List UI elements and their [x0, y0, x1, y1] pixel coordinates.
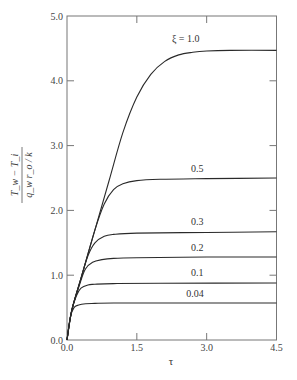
- curve-label: 0.2: [191, 242, 204, 253]
- y-tick-label: 2.0: [51, 205, 64, 216]
- curve-1.0: [67, 50, 277, 340]
- y-axis-title-numerator: T_w − T_i: [9, 154, 20, 197]
- curve-label: 0.5: [191, 163, 204, 174]
- y-tick-label: 4.0: [51, 75, 64, 86]
- y-tick-label: 1.0: [51, 270, 64, 281]
- y-tick-label: 3.0: [51, 140, 64, 151]
- y-tick-label: 0.0: [51, 335, 64, 346]
- curve-0.2: [67, 257, 277, 340]
- x-axis-title: τ: [169, 355, 174, 367]
- curve-0.3: [67, 232, 277, 340]
- curve-0.5: [67, 178, 277, 340]
- y-axis-title-denominator: q_w r_o / k: [23, 152, 34, 198]
- y-tick-label: 5.0: [51, 11, 64, 22]
- chart: 0.01.53.04.50.01.02.03.04.05.0 ξ = 1.00.…: [0, 0, 297, 380]
- curve-label: 0.3: [191, 216, 204, 227]
- y-axis-title: T_w − T_i q_w r_o / k: [2, 140, 42, 210]
- x-tick-label: 1.5: [131, 342, 144, 353]
- curve-label: ξ = 1.0: [172, 33, 200, 45]
- curve-0.1: [67, 283, 277, 340]
- curves: [67, 50, 277, 340]
- curve-label: 0.04: [186, 288, 204, 299]
- curve-labels: ξ = 1.00.50.30.20.10.04: [172, 33, 204, 299]
- curve-label: 0.1: [191, 267, 204, 278]
- x-tick-label: 3.0: [200, 342, 213, 353]
- curve-0.04: [67, 303, 277, 340]
- axis-ticks: 0.01.53.04.50.01.02.03.04.05.0: [51, 11, 283, 354]
- x-tick-label: 4.5: [270, 342, 283, 353]
